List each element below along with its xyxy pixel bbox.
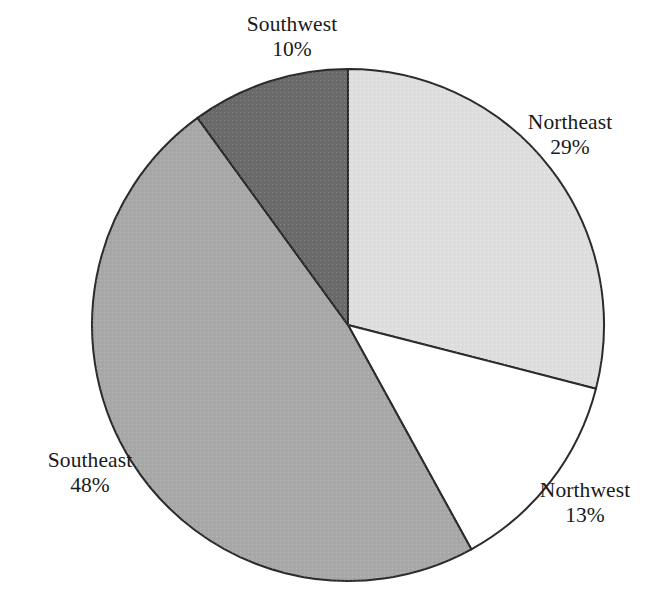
pie-label-southeast-value: 48% — [4, 473, 176, 498]
pie-label-northeast-value: 29% — [470, 135, 670, 160]
pie-label-northwest-value: 13% — [500, 503, 670, 528]
pie-label-southwest: Southwest 10% — [112, 12, 472, 63]
pie-label-southeast: Southeast 48% — [4, 448, 176, 499]
pie-chart: Southwest 10% Northeast 29% Northwest 13… — [0, 0, 671, 603]
pie-label-northwest: Northwest 13% — [500, 478, 670, 529]
pie-label-southwest-name: Southwest — [112, 12, 472, 37]
pie-label-northeast: Northeast 29% — [470, 110, 670, 161]
pie-label-northwest-name: Northwest — [500, 478, 670, 503]
pie-label-southeast-name: Southeast — [4, 448, 176, 473]
pie-label-northeast-name: Northeast — [470, 110, 670, 135]
pie-label-southwest-value: 10% — [112, 37, 472, 62]
